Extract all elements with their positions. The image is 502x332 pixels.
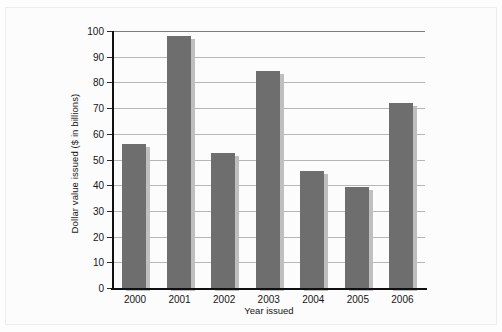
x-tick-label: 2001 xyxy=(158,294,202,305)
y-tick-label: 100 xyxy=(87,26,104,37)
y-axis-title: Dollar value issued ($ in billions) xyxy=(69,64,80,264)
x-tick-label: 2000 xyxy=(113,294,157,305)
x-tick-label: 2004 xyxy=(291,294,335,305)
y-tick-label: 20 xyxy=(93,231,104,242)
x-tick-label: 2005 xyxy=(336,294,380,305)
y-axis-line xyxy=(112,31,114,289)
bar-slot xyxy=(247,31,291,288)
bar-slot xyxy=(336,31,380,288)
x-tick-label: 2002 xyxy=(202,294,246,305)
y-tick-label: 90 xyxy=(93,51,104,62)
x-tick-label: 2006 xyxy=(380,294,424,305)
bar-2003 xyxy=(256,71,280,288)
plot-area: 0102030405060708090100 20002001200220032… xyxy=(113,31,425,288)
bar-slot xyxy=(113,31,157,288)
bar-slot xyxy=(202,31,246,288)
bar-2006 xyxy=(389,103,413,288)
y-tick-label: 80 xyxy=(93,77,104,88)
x-axis-line xyxy=(111,288,427,290)
bar-2000 xyxy=(122,144,146,288)
bar-2001 xyxy=(167,36,191,288)
bar-2004 xyxy=(300,171,324,288)
bar-chart-figure: Dollar value issued ($ in billions) 0102… xyxy=(0,0,502,332)
y-tick-label: 30 xyxy=(93,205,104,216)
y-tick-label: 50 xyxy=(93,154,104,165)
bar-2005 xyxy=(345,187,369,289)
y-tick-label: 70 xyxy=(93,103,104,114)
x-axis-title: Year issued xyxy=(113,305,425,316)
bars-group xyxy=(113,31,425,288)
y-tick-label: 60 xyxy=(93,128,104,139)
y-tick-label: 0 xyxy=(98,283,104,294)
y-tick-label: 40 xyxy=(93,180,104,191)
y-tick-label: 10 xyxy=(93,257,104,268)
bar-slot xyxy=(380,31,424,288)
bar-slot xyxy=(291,31,335,288)
bar-2002 xyxy=(211,153,235,288)
x-tick-label: 2003 xyxy=(247,294,291,305)
bar-slot xyxy=(158,31,202,288)
